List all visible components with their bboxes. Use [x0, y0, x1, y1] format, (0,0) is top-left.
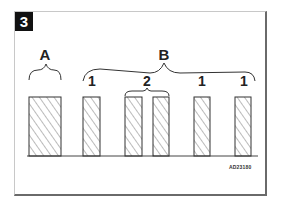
brace-b-icon	[83, 63, 255, 81]
bar-B1-third	[235, 97, 251, 156]
bars-group	[29, 97, 251, 156]
bar-B1-first	[83, 97, 100, 156]
brace-2-icon	[125, 88, 169, 96]
label-sub-1c: 1	[240, 73, 248, 89]
label-group-a: A	[40, 46, 51, 63]
label-sub-1b: 1	[198, 73, 206, 89]
bar-B1-second	[194, 97, 210, 156]
bar-diagram: A B 1 2 1 1	[0, 0, 283, 203]
reference-code: AD23180	[229, 164, 252, 170]
bar-A	[29, 97, 61, 156]
bar-B2-right	[153, 97, 169, 156]
label-group-b: B	[159, 46, 170, 63]
bar-B2-left	[125, 97, 142, 156]
label-sub-2: 2	[143, 73, 151, 89]
brace-a-icon	[29, 64, 61, 80]
label-sub-1a: 1	[88, 73, 96, 89]
